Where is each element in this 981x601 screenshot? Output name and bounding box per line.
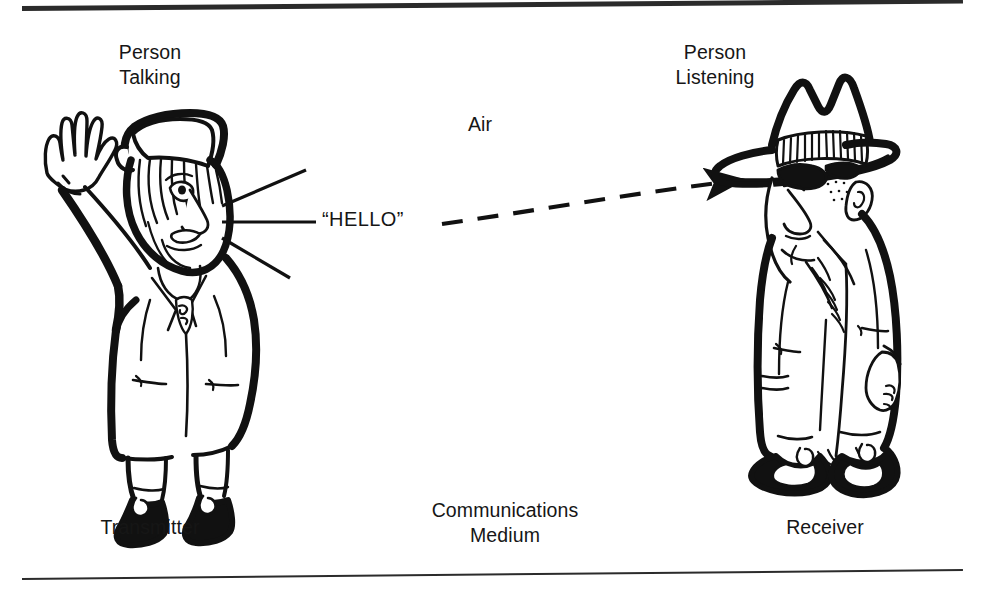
communications-diagram: Person Talking Person Listening Air “HEL… — [0, 0, 981, 601]
label-air: Air — [420, 112, 540, 137]
label-communications-medium: Communications Medium — [380, 498, 630, 548]
label-receiver: Receiver — [725, 515, 925, 540]
label-hello-utterance: “HELLO” — [322, 208, 404, 231]
label-transmitter: Transmitter — [50, 515, 250, 540]
label-person-listening: Person Listening — [620, 40, 810, 90]
label-person-talking: Person Talking — [55, 40, 245, 90]
